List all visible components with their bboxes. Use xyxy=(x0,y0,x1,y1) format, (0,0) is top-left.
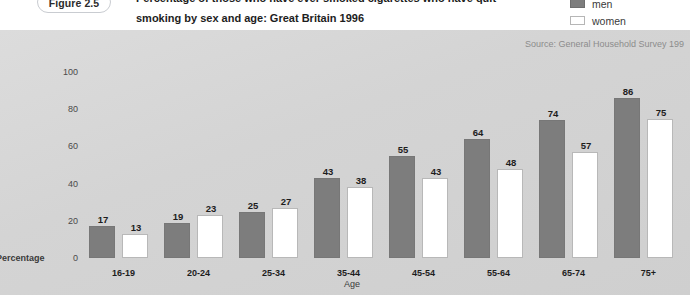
bar-men-16-19: 17 xyxy=(89,226,115,258)
bar-value-women-65-74: 57 xyxy=(565,140,607,151)
x-axis-tick-65-74: 65-74 xyxy=(536,268,611,278)
legend-item-men: men xyxy=(570,0,656,11)
y-axis-label: Percentage xyxy=(0,253,45,263)
bar-women-16-19: 13 xyxy=(122,234,148,258)
bar-groups: 171316-19192320-24252725-34433835-445543… xyxy=(86,30,690,295)
bar-group-55-64: 644855-64 xyxy=(461,30,536,295)
bar-value-women-16-19: 13 xyxy=(115,222,157,233)
bar-men-25-34: 25 xyxy=(239,212,265,259)
bar-men-20-24: 19 xyxy=(164,223,190,258)
bar-women-25-34: 27 xyxy=(272,208,298,258)
x-axis-tick-55-64: 55-64 xyxy=(461,268,536,278)
y-axis-tick-100: 100 xyxy=(52,67,78,77)
chart-legend: men women xyxy=(570,0,656,30)
bar-women-65-74: 57 xyxy=(572,152,598,258)
bar-women-20-24: 23 xyxy=(197,215,223,258)
figure-title-line-1: Percentage of those who have ever smoked… xyxy=(136,0,496,4)
figure-header: Figure 2.5 Percentage of those who have … xyxy=(0,0,690,30)
bar-value-women-25-34: 27 xyxy=(265,196,307,207)
y-axis-tick-0: 0 xyxy=(52,253,78,263)
figure-title-line-2: smoking by sex and age: Great Britain 19… xyxy=(136,9,556,29)
y-axis-tick-60: 60 xyxy=(52,141,78,151)
bar-women-75+: 75 xyxy=(647,119,673,259)
bar-women-55-64: 48 xyxy=(497,169,523,258)
x-axis-tick-45-54: 45-54 xyxy=(386,268,461,278)
bar-value-men-75+: 86 xyxy=(607,86,649,97)
x-axis-tick-35-44: 35-44 xyxy=(311,268,386,278)
bar-men-65-74: 74 xyxy=(539,120,565,258)
y-axis-tick-20: 20 xyxy=(52,216,78,226)
bar-value-women-45-54: 43 xyxy=(415,166,457,177)
legend-item-women: women xyxy=(570,13,656,28)
figure-title: Percentage of those who have ever smoked… xyxy=(136,0,556,28)
bar-group-65-74: 745765-74 xyxy=(536,30,611,295)
bar-value-men-45-54: 55 xyxy=(382,144,424,155)
bar-men-75+: 86 xyxy=(614,98,640,258)
bar-men-35-44: 43 xyxy=(314,178,340,258)
y-axis-tick-40: 40 xyxy=(52,179,78,189)
legend-swatch-women-icon xyxy=(570,16,585,25)
bar-group-45-54: 554345-54 xyxy=(386,30,461,295)
bar-men-45-54: 55 xyxy=(389,156,415,258)
bar-men-55-64: 64 xyxy=(464,139,490,258)
figure-container: Figure 2.5 Percentage of those who have … xyxy=(0,0,690,295)
bar-value-men-65-74: 74 xyxy=(532,108,574,119)
y-axis-tick-80: 80 xyxy=(52,104,78,114)
bar-value-women-35-44: 38 xyxy=(340,175,382,186)
legend-label-women: women xyxy=(592,15,626,27)
chart-plot-area: Source: General Household Survey 199 020… xyxy=(0,30,690,295)
bar-group-25-34: 252725-34 xyxy=(236,30,311,295)
bar-value-women-55-64: 48 xyxy=(490,157,532,168)
bar-women-35-44: 38 xyxy=(347,187,373,258)
x-axis-tick-16-19: 16-19 xyxy=(86,268,161,278)
bar-value-men-55-64: 64 xyxy=(457,127,499,138)
x-axis-tick-75+: 75+ xyxy=(611,268,686,278)
bar-women-45-54: 43 xyxy=(422,178,448,258)
figure-number-badge: Figure 2.5 xyxy=(37,0,111,13)
bar-group-35-44: 433835-44 xyxy=(311,30,386,295)
bar-value-women-20-24: 23 xyxy=(190,203,232,214)
x-axis-tick-25-34: 25-34 xyxy=(236,268,311,278)
bar-group-20-24: 192320-24 xyxy=(161,30,236,295)
bar-group-16-19: 171316-19 xyxy=(86,30,161,295)
legend-swatch-men-icon xyxy=(570,0,585,8)
bar-group-75+: 867575+ xyxy=(611,30,686,295)
bar-value-women-75+: 75 xyxy=(640,107,682,118)
x-axis-tick-20-24: 20-24 xyxy=(161,268,236,278)
legend-label-men: men xyxy=(592,0,612,10)
